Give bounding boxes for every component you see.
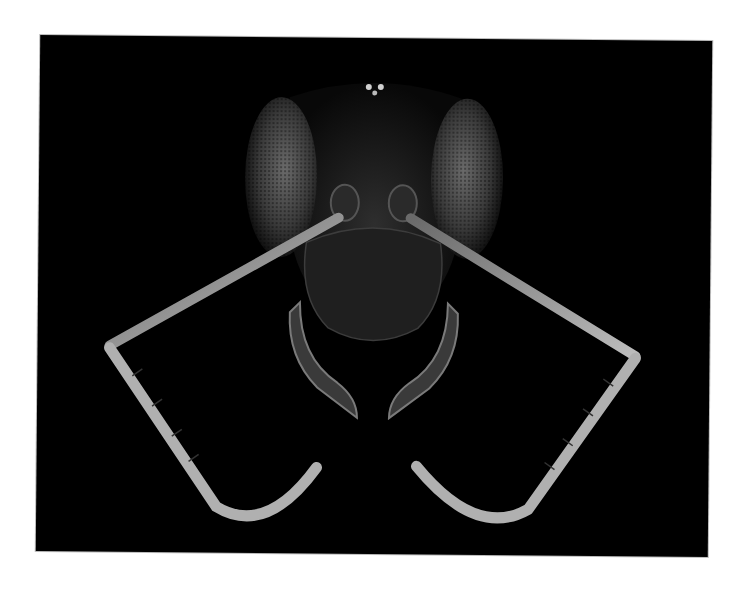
right-antenna-funiculus bbox=[416, 356, 635, 519]
ocellus-left bbox=[366, 84, 372, 90]
ocellus-center bbox=[372, 90, 377, 95]
left-antenna-funiculus bbox=[108, 348, 317, 517]
ocellus-right bbox=[378, 84, 384, 90]
left-antenna-scape bbox=[110, 216, 339, 348]
ant-head-illustration bbox=[36, 35, 712, 557]
ant-photograph bbox=[36, 35, 712, 557]
